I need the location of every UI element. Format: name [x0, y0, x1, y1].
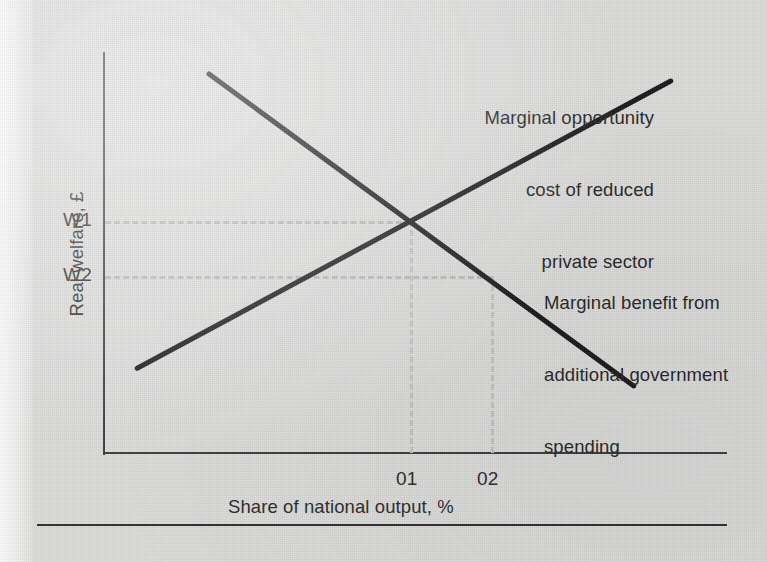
- annotation-benefit-line-2: additional government: [544, 363, 728, 387]
- x-tick-label-o1: 01: [396, 468, 418, 490]
- annotation-cost-line-2: cost of reduced: [484, 178, 654, 202]
- figure-bottom-rule: [37, 524, 727, 526]
- annotation-marginal-benefit: Marginal benefit from additional governm…: [544, 243, 728, 507]
- x-tick-label-o2: 02: [477, 468, 499, 490]
- y-axis-title: Real welfare, £: [66, 174, 88, 334]
- x-axis-title: Share of national output, %: [228, 496, 454, 518]
- y-axis-line: [103, 52, 105, 455]
- annotation-benefit-line-3: spending: [544, 435, 728, 459]
- o1-guide-line: [410, 221, 413, 453]
- annotation-benefit-line-1: Marginal benefit from: [544, 291, 728, 315]
- economics-chart-figure: Real welfare, £ Share of national output…: [0, 0, 767, 562]
- y-tick-label-w1: W1: [63, 209, 92, 231]
- annotation-cost-line-1: Marginal opportunity: [484, 106, 654, 130]
- y-tick-label-w2: W2: [63, 264, 92, 286]
- w1-guide-line: [105, 221, 411, 224]
